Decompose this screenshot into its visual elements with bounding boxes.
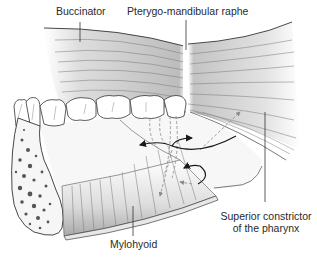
label-superior-constrictor-line1: Superior constrictor xyxy=(214,210,317,222)
label-mylohyoid: Mylohyoid xyxy=(110,238,157,250)
label-superior-constrictor-line2: of the pharynx xyxy=(214,222,317,234)
label-pterygo-mandibular-raphe: Pterygo-mandibular raphe xyxy=(127,5,248,17)
label-superior-constrictor: Superior constrictor of the pharynx xyxy=(214,210,317,234)
label-buccinator: Buccinator xyxy=(56,5,106,17)
